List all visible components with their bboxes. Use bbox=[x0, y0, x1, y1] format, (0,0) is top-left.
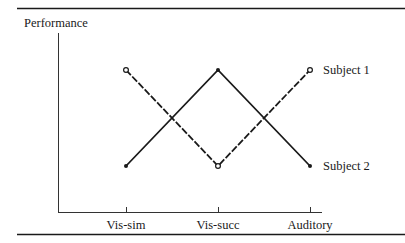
chart: Performance Vis-simVis-succAuditory Subj… bbox=[0, 0, 405, 243]
open-circle-marker bbox=[124, 68, 129, 73]
y-axis-label: Performance bbox=[24, 16, 88, 30]
series-line bbox=[126, 70, 310, 166]
filled-circle-marker bbox=[216, 68, 220, 72]
series-group bbox=[124, 68, 313, 169]
open-circle-marker bbox=[308, 68, 313, 73]
filled-circle-marker bbox=[124, 164, 128, 168]
inline-legend: Subject 1Subject 2 bbox=[323, 63, 370, 173]
x-tick-label: Vis-sim bbox=[107, 218, 146, 232]
series-line bbox=[126, 70, 310, 166]
x-ticks bbox=[127, 207, 311, 212]
x-tick-label: Vis-succ bbox=[197, 218, 240, 232]
filled-circle-marker bbox=[308, 164, 312, 168]
series-label: Subject 1 bbox=[323, 63, 370, 77]
series-label: Subject 2 bbox=[323, 159, 370, 173]
x-tick-label: Auditory bbox=[287, 218, 333, 232]
x-tick-labels: Vis-simVis-succAuditory bbox=[107, 218, 334, 232]
open-circle-marker bbox=[216, 164, 221, 169]
